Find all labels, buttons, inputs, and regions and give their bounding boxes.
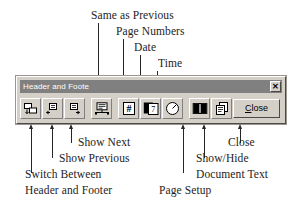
show-previous-icon: [45, 101, 60, 116]
same-as-previous-icon: [94, 101, 110, 116]
svg-text:7: 7: [151, 105, 155, 114]
leader-line-show-next: [71, 129, 72, 143]
page-numbers-icon: #: [122, 101, 136, 116]
header-and-footer-toolbar[interactable]: Header and Foote ✕: [16, 76, 286, 124]
toolbar-button-page-numbers[interactable]: #: [118, 98, 139, 119]
callout-label-close: Close: [228, 136, 255, 148]
callout-label-show-hide: Show/Hide: [196, 152, 249, 164]
callout-label-switch-between: Switch Between: [25, 168, 101, 180]
diagram-canvas: Same as Previous Page Numbers Date Time …: [0, 0, 295, 211]
toolbar-button-switch-header-footer[interactable]: [20, 98, 41, 119]
toolbar-button-page-setup[interactable]: [189, 98, 210, 119]
callout-label-page-numbers: Page Numbers: [116, 25, 185, 37]
toolbar-button-show-hide-document-text[interactable]: [211, 98, 232, 119]
leader-line-switch-header-footer: [31, 129, 32, 173]
callout-label-date: Date: [134, 41, 156, 53]
close-button-label: lose: [251, 103, 268, 113]
callout-label-document-text: Document Text: [196, 168, 268, 180]
close-icon[interactable]: ✕: [270, 81, 281, 92]
callout-label-time: Time: [158, 57, 182, 69]
toolbar-button-insert-time[interactable]: [162, 98, 183, 119]
callout-label-show-previous: Show Previous: [59, 152, 130, 164]
switch-header-footer-icon: [23, 101, 38, 116]
leader-line-show-previous: [52, 129, 53, 158]
callout-label-page-setup: Page Setup: [159, 184, 211, 196]
book-icon: [192, 101, 208, 116]
callout-label-show-next: Show Next: [78, 136, 130, 148]
clock-icon: [165, 101, 180, 116]
document-pages-icon: [215, 101, 229, 116]
callout-label-header-and-footer: Header and Footer: [25, 184, 112, 196]
calendar-icon: 7: [143, 101, 159, 116]
callout-label-same-as-previous: Same as Previous: [91, 9, 174, 21]
toolbar-button-show-previous[interactable]: [42, 98, 63, 119]
toolbar-button-insert-date[interactable]: 7: [140, 98, 161, 119]
leader-line-page-setup: [183, 129, 184, 173]
svg-text:#: #: [126, 103, 131, 114]
toolbar-button-same-as-previous[interactable]: [91, 98, 112, 119]
close-button[interactable]: Close: [233, 99, 280, 118]
show-next-icon: [67, 101, 82, 116]
toolbar-button-show-next[interactable]: [64, 98, 85, 119]
toolbar-title: Header and Foote: [20, 82, 89, 91]
toolbar-titlebar[interactable]: Header and Foote ✕: [20, 80, 282, 93]
toolbar-button-row: # 7: [20, 95, 282, 121]
